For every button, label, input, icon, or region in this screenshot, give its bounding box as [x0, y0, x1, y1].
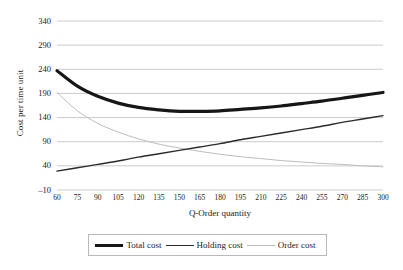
plot-area: [0, 0, 403, 270]
chart-legend: Total cost Holding cost Order cost: [88, 234, 327, 256]
legend-item-order-cost: Order cost: [247, 240, 320, 250]
y-tick-label: 340: [17, 17, 51, 26]
legend-label-total-cost: Total cost: [123, 240, 165, 250]
y-tick-label: 40: [17, 161, 51, 170]
legend-label-order-cost: Order cost: [275, 240, 320, 250]
y-axis-title: Cost per time unit: [15, 47, 25, 159]
legend-item-total-cost: Total cost: [95, 240, 165, 250]
series-line-order-cost: [57, 92, 383, 166]
legend-label-holding-cost: Holding cost: [194, 240, 247, 250]
legend-swatch-holding-cost-icon: [166, 245, 194, 246]
series-line-holding-cost: [57, 116, 383, 172]
legend-item-holding-cost: Holding cost: [166, 240, 247, 250]
eoq-cost-chart: 3402902401901409040–10 60759010512013515…: [0, 0, 403, 270]
series-line-total-cost: [57, 71, 383, 112]
x-tick-label: 300: [371, 194, 395, 202]
x-axis-title: Q-Order quantity: [57, 208, 383, 218]
legend-swatch-total-cost-icon: [95, 244, 123, 247]
legend-swatch-order-cost-icon: [247, 245, 275, 246]
